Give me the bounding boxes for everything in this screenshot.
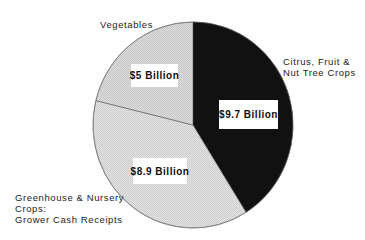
citrus-label-line1: Citrus, Fruit & (283, 56, 356, 67)
citrus-value: $9.7 Billion (219, 109, 278, 120)
vegetables-value-box: $5 Billion (131, 64, 178, 87)
greenhouse-label-line2: Crops: (15, 203, 124, 214)
vegetables-label: Vegetables (100, 19, 153, 30)
citrus-value-box: $9.7 Billion (219, 100, 278, 129)
greenhouse-value-box: $8.9 Billion (133, 158, 187, 184)
greenhouse-label-line3: Grower Cash Receipts (15, 214, 124, 225)
greenhouse-label-line1: Greenhouse & Nursery (15, 192, 124, 203)
citrus-label-line2: Nut Tree Crops (283, 67, 356, 78)
greenhouse-value: $8.9 Billion (131, 166, 190, 177)
vegetables-value: $5 Billion (130, 70, 179, 81)
vegetables-label-line1: Vegetables (100, 19, 153, 30)
citrus-label: Citrus, Fruit & Nut Tree Crops (283, 56, 356, 78)
greenhouse-label: Greenhouse & Nursery Crops: Grower Cash … (15, 192, 124, 225)
